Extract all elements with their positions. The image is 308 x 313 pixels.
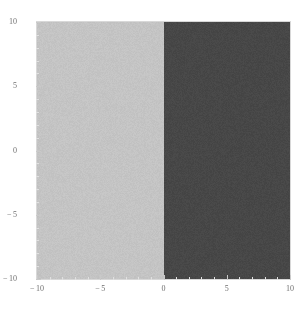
x-tick-minor [265,277,266,280]
x-tick-label: 10 [286,285,294,293]
y-tick-minor [36,48,39,49]
x-tick-minor [62,277,63,280]
y-tick-minor [36,125,39,126]
x-tick-minor [201,277,202,280]
y-tick-minor [36,202,39,203]
x-tick-minor [88,277,89,280]
x-tick-major [290,275,291,280]
x-tick-major [227,275,228,280]
y-tick-minor [36,61,39,62]
x-tick-minor [75,277,76,280]
y-tick-minor [36,176,39,177]
x-tick-minor [113,277,114,280]
y-tick-label: 0 [13,147,17,155]
x-tick-minor [239,277,240,280]
y-tick-major [36,86,41,87]
x-tick-label: − 5 [95,285,105,293]
y-tick-label: 10 [9,18,17,26]
x-tick-minor [277,277,278,280]
y-tick-minor [36,112,39,113]
plot-frame [36,21,291,280]
x-tick-label: − 10 [30,285,44,293]
x-tick-minor [252,277,253,280]
x-tick-label: 0 [162,285,166,293]
x-tick-minor [151,277,152,280]
x-tick-minor [176,277,177,280]
y-tick-major [36,279,41,280]
y-tick-minor [36,163,39,164]
y-tick-label: − 5 [7,211,17,219]
y-tick-minor [36,189,39,190]
y-tick-minor [36,99,39,100]
y-tick-major [36,151,41,152]
y-tick-minor [36,138,39,139]
y-tick-minor [36,240,39,241]
x-tick-minor [189,277,190,280]
y-tick-label: − 10 [3,275,17,283]
x-tick-minor [50,277,51,280]
x-tick-minor [214,277,215,280]
y-tick-major [36,22,41,23]
region-fill-canvas [37,22,290,279]
y-tick-minor [36,73,39,74]
x-tick-minor [126,277,127,280]
y-tick-label: 5 [13,82,17,90]
y-tick-major [36,215,41,216]
y-tick-minor [36,35,39,36]
region-plot: − 10− 50510− 10− 50510 [0,0,308,313]
x-tick-minor [138,277,139,280]
x-tick-major [100,275,101,280]
y-tick-minor [36,266,39,267]
x-tick-major [164,275,165,280]
y-tick-minor [36,228,39,229]
x-tick-label: 5 [225,285,229,293]
y-tick-minor [36,253,39,254]
